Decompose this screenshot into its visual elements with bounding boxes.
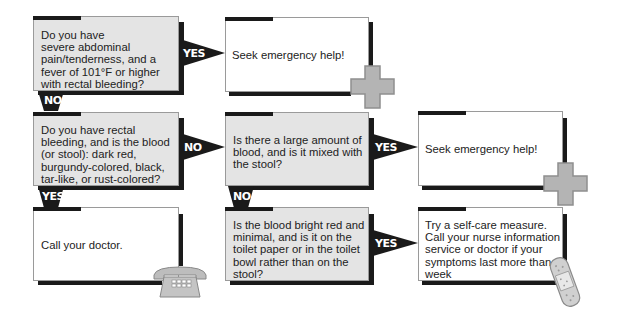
bandage-icon xyxy=(548,255,582,310)
question-text-line: the stool? xyxy=(233,158,362,170)
question-text-line: burgundy-colored, black, xyxy=(41,161,170,173)
answer-text-line: service or doctor if your xyxy=(425,243,561,255)
answer-text-line: Call your nurse information xyxy=(425,231,561,243)
question-text-line: fever of 101°F or higher xyxy=(41,66,160,78)
edge-label-no: NO xyxy=(233,190,251,203)
edge-label-yes: YES xyxy=(42,190,64,203)
medical-cross-icon xyxy=(543,162,589,206)
question-text-line: toilet paper or in the toilet xyxy=(233,243,364,255)
medical-cross-icon xyxy=(350,65,396,109)
question-text-line: Is there a large amount of xyxy=(233,134,362,146)
answer-text-line: symptoms last more than a xyxy=(425,256,561,268)
question-text-line: tar-like, or rust-colored? xyxy=(41,173,170,185)
edge-label-yes: YES xyxy=(375,141,397,154)
question-text-line: blood, and is it mixed with xyxy=(233,146,362,158)
answer-text: Seek emergency help! xyxy=(425,143,537,155)
answer-text: Seek emergency help! xyxy=(232,49,344,61)
question-text-line: pain/tenderness, and a xyxy=(41,53,160,65)
question-text-line: (or stool): dark red, xyxy=(41,148,170,160)
question-text-line: Do you have xyxy=(41,29,160,41)
question-text-line: stool? xyxy=(233,268,364,280)
edge-label-no: NO xyxy=(44,94,62,107)
question-text-line: severe abdominal xyxy=(41,41,160,53)
edge-label-no: NO xyxy=(184,141,202,154)
question-text-line: Is the blood bright red and xyxy=(233,219,364,231)
answer-text-line: week xyxy=(425,268,561,280)
answer-text: Call your doctor. xyxy=(41,239,123,251)
question-text-line: minimal, and is it on the xyxy=(233,231,364,243)
answer-text-line: Try a self-care measure. xyxy=(425,219,561,231)
question-text-line: Do you have rectal xyxy=(41,124,170,136)
edge-label-yes: YES xyxy=(375,237,397,250)
question-text-line: bowl rather than on the xyxy=(233,256,364,268)
question-text-line: bleeding, and is the blood xyxy=(41,136,170,148)
question-text-line: with rectal bleeding? xyxy=(41,78,160,90)
edge-label-yes: YES xyxy=(183,47,205,60)
telephone-icon xyxy=(152,265,208,299)
